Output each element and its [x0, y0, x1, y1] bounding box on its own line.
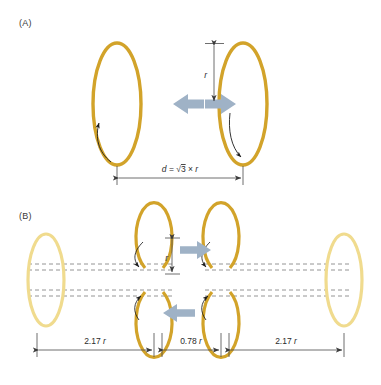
sep-dim-label-a: d = √3 × r [162, 164, 200, 174]
panel-b-group: r 2.17 r 0.78 r [28, 203, 362, 358]
radius-dim-label-a: r [204, 70, 208, 80]
coil-left-a [93, 43, 141, 165]
panel-a-group: r d = √3 × r [93, 43, 267, 185]
force-arrow-bottom-b [163, 304, 195, 322]
coil-far-right-b [326, 234, 362, 326]
spacing-right-dim-label-b: 2.17 r [275, 336, 298, 346]
diagram-canvas: r d = √3 × r [0, 0, 381, 385]
spacing-left-dim-label-b: 2.17 r [84, 336, 107, 346]
rotation-arrow-right-a [229, 113, 241, 157]
dashed-axis-lines [28, 264, 352, 296]
coil-inner-right-top-b [203, 203, 239, 268]
force-arrow-left-a [173, 94, 204, 114]
coil-far-left-b [28, 234, 64, 326]
spacing-center-dim-label-b: 0.78 r [180, 336, 203, 346]
figure-container: (A) (B) [0, 0, 381, 385]
